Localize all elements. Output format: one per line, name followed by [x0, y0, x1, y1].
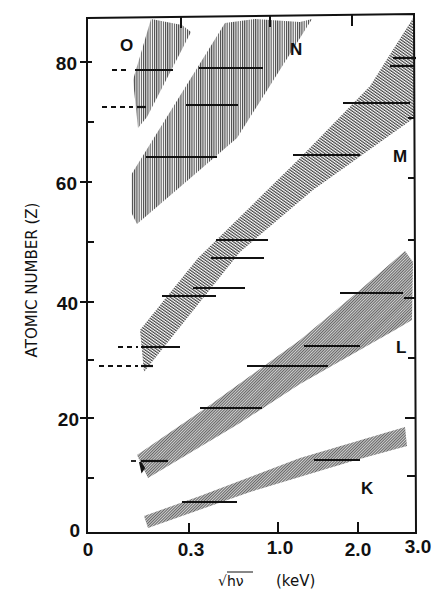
x-tick-2.0: 2.0	[345, 539, 371, 560]
absorption-edge-chart: 80 60 40 20 0 0 0.3 1.0 2.0 3.0 O N M L …	[0, 0, 447, 601]
shell-label-o: O	[120, 36, 133, 55]
shell-label-l: L	[396, 338, 406, 357]
y-tick-60: 60	[56, 173, 77, 194]
shell-label-n: N	[290, 40, 302, 59]
y-tick-labels: 80 60 40 20 0	[56, 53, 80, 541]
shell-label-k: K	[361, 479, 374, 498]
y-tick-80: 80	[56, 53, 77, 74]
x-tick-0: 0	[83, 539, 94, 560]
y-tick-40: 40	[57, 293, 78, 314]
x-tick-3.0: 3.0	[405, 536, 431, 557]
y-tick-20: 20	[58, 409, 79, 430]
y-axis-title: ATOMIC NUMBER (Z)	[23, 203, 41, 358]
x-tick-labels: 0 0.3 1.0 2.0 3.0	[83, 536, 432, 560]
y-tick-0: 0	[69, 520, 80, 541]
shell-label-m: M	[393, 147, 407, 166]
x-tick-0.3: 0.3	[178, 539, 204, 560]
x-axis-title-root: √hν	[218, 573, 244, 589]
x-tick-1.0: 1.0	[267, 537, 293, 558]
x-axis-title-unit: (keV)	[276, 572, 315, 590]
shell-bands	[131, 15, 415, 528]
